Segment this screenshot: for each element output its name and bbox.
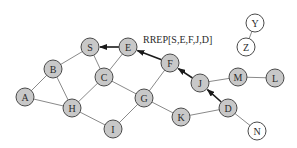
node-n: N: [248, 122, 266, 140]
node-label: C: [101, 72, 108, 83]
node-b: B: [44, 60, 62, 78]
network-diagram: SEBCAHGIFJMLKDNYZ RREP[S,E,F,J,D]: [0, 0, 297, 148]
node-i: I: [104, 120, 122, 138]
route-arrow-d-to-j: [207, 90, 221, 102]
route-arrow-j-to-f: [178, 69, 192, 78]
node-d: D: [219, 99, 237, 117]
node-z: Z: [237, 38, 255, 56]
node-label: L: [272, 73, 278, 84]
node-y: Y: [246, 14, 264, 32]
node-label: D: [224, 103, 231, 114]
node-label: A: [21, 92, 29, 103]
node-label: H: [68, 103, 75, 114]
node-label: Y: [251, 18, 258, 29]
node-s: S: [81, 38, 99, 56]
node-h: H: [63, 99, 81, 117]
node-label: M: [234, 72, 243, 83]
node-k: K: [172, 108, 190, 126]
node-label: Z: [243, 42, 249, 53]
node-label: N: [253, 126, 260, 137]
node-label: G: [140, 93, 147, 104]
node-g: G: [135, 89, 153, 107]
route-arrow-f-to-e: [137, 51, 161, 60]
node-m: M: [229, 68, 247, 86]
node-e: E: [119, 38, 137, 56]
node-label: E: [125, 42, 131, 53]
node-j: J: [191, 74, 209, 92]
node-label: F: [167, 58, 173, 69]
node-label: B: [50, 64, 57, 75]
node-c: C: [95, 68, 113, 86]
rrep-annotation: RREP[S,E,F,J,D]: [143, 34, 212, 45]
node-label: K: [177, 112, 185, 123]
node-label: J: [198, 78, 202, 89]
node-f: F: [161, 54, 179, 72]
node-label: I: [111, 124, 114, 135]
node-l: L: [266, 69, 284, 87]
node-a: A: [16, 88, 34, 106]
node-label: S: [87, 42, 93, 53]
